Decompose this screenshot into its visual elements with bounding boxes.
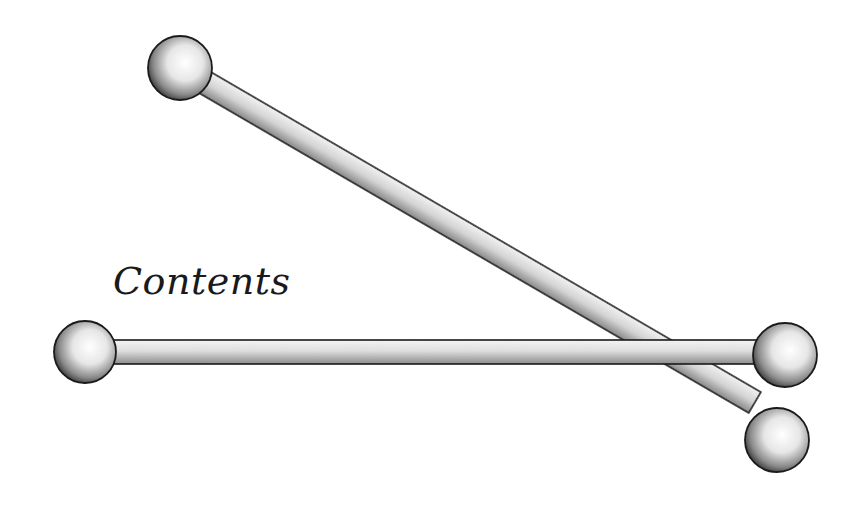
diagonal-rod-top-ball xyxy=(148,36,212,100)
page-title: Contents xyxy=(113,262,290,300)
diagonal-rod-bottom-ball xyxy=(745,408,809,472)
diagonal-dumbbell xyxy=(148,36,809,472)
crossed-rods-illustration xyxy=(0,0,864,516)
horizontal-rod-shaft xyxy=(100,340,780,364)
horizontal-rod-right-ball xyxy=(753,323,817,387)
horizontal-rod-left-ball xyxy=(54,321,116,383)
